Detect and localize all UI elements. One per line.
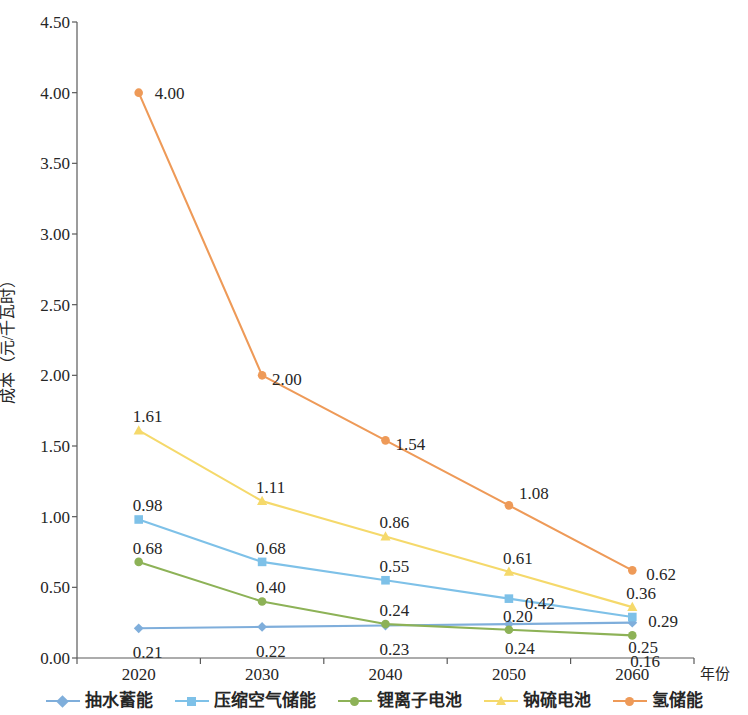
data-point-marker (505, 625, 514, 634)
legend-item-锂离子电池[interactable]: 锂离子电池 (338, 692, 462, 709)
legend-label: 抽水蓄能 (85, 692, 153, 709)
data-label: 0.24 (380, 602, 410, 619)
data-label: 2.00 (272, 371, 302, 388)
series-line (139, 93, 633, 571)
legend-label: 氢储能 (652, 692, 703, 709)
legend-item-钠硫电池[interactable]: 钠硫电池 (484, 692, 591, 709)
data-point-marker (134, 515, 143, 524)
data-label: 0.36 (626, 585, 656, 602)
legend-key (484, 694, 518, 708)
data-label: 1.61 (133, 408, 163, 425)
legend-key (175, 694, 209, 708)
plot-area (0, 0, 748, 715)
data-label: 0.86 (380, 514, 410, 531)
legend-label: 压缩空气储能 (214, 692, 316, 709)
data-point-marker (258, 558, 267, 567)
data-label: 0.55 (380, 558, 410, 575)
data-label: 4.00 (155, 85, 185, 102)
data-point-marker (381, 576, 390, 585)
data-label: 1.54 (396, 436, 426, 453)
data-point-marker (134, 425, 144, 434)
data-label: 0.40 (256, 579, 286, 596)
data-label: 0.98 (133, 497, 163, 514)
data-label: 0.21 (133, 644, 163, 661)
data-label: 0.16 (630, 653, 660, 670)
data-point-marker (134, 623, 144, 633)
data-label: 0.61 (503, 550, 533, 567)
legend-marker-diamond-icon (56, 695, 69, 708)
data-label: 0.62 (646, 566, 676, 583)
data-point-marker (257, 496, 267, 505)
legend-key (338, 694, 372, 708)
data-point-marker (381, 620, 390, 629)
data-point-marker (257, 622, 267, 632)
legend-key (613, 694, 647, 708)
chart-container: 成本（元/千瓦时） 年份 0.000.501.001.502.002.503.0… (0, 0, 748, 715)
data-point-marker (258, 597, 267, 606)
data-label: 0.29 (648, 613, 678, 630)
legend-key (46, 694, 80, 708)
data-label: 0.68 (133, 540, 163, 557)
data-point-marker (628, 566, 637, 575)
data-label: 0.20 (503, 608, 533, 625)
data-label: 0.22 (256, 643, 286, 660)
legend-marker-circle-icon (625, 697, 634, 706)
legend-item-压缩空气储能[interactable]: 压缩空气储能 (175, 692, 316, 709)
data-point-marker (258, 371, 267, 380)
legend-marker-triangle-icon (496, 696, 506, 705)
data-label: 0.68 (256, 540, 286, 557)
data-label: 1.08 (519, 485, 549, 502)
legend-label: 钠硫电池 (523, 692, 591, 709)
data-point-marker (505, 594, 514, 603)
data-point-marker (134, 558, 143, 567)
legend-marker-square-icon (187, 697, 196, 706)
chart-legend: 抽水蓄能压缩空气储能锂离子电池钠硫电池氢储能 (0, 686, 748, 715)
legend-item-抽水蓄能[interactable]: 抽水蓄能 (46, 692, 153, 709)
data-label: 1.11 (256, 479, 285, 496)
data-point-marker (505, 501, 514, 510)
legend-marker-circle-icon (350, 697, 359, 706)
legend-item-氢储能[interactable]: 氢储能 (613, 692, 703, 709)
data-label: 0.23 (380, 641, 410, 658)
data-point-marker (628, 613, 637, 622)
data-point-marker (134, 88, 143, 97)
data-label: 0.24 (505, 640, 535, 657)
series-氢储能 (134, 88, 636, 574)
legend-label: 锂离子电池 (377, 692, 462, 709)
data-point-marker (381, 436, 390, 445)
